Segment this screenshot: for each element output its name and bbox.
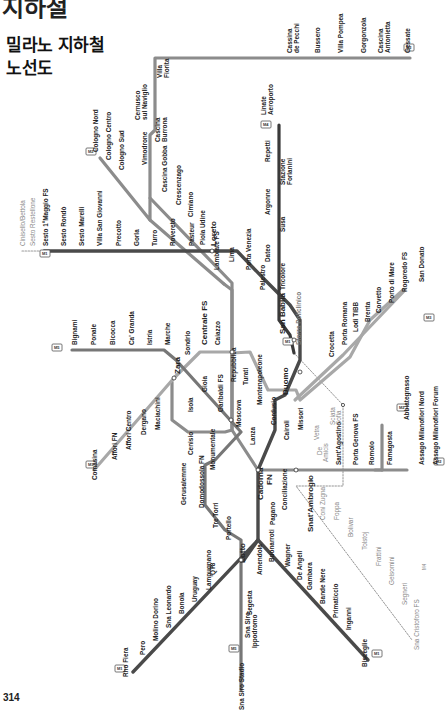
station-sondrio[interactable]: Sondrio (184, 331, 191, 355)
station-tricolore[interactable]: Tricolore (279, 263, 286, 290)
station-romolo[interactable]: Romolo (368, 441, 375, 465)
station-gioia[interactable]: Gioia (201, 376, 208, 392)
station-bicocca[interactable]: Bicocca (109, 320, 116, 345)
station-buonarroti[interactable]: Buonarroti (268, 529, 275, 562)
station-gessate[interactable]: Gessate (404, 28, 411, 53)
station-segesta[interactable]: Segesta (246, 590, 254, 615)
station-corvetto[interactable]: Corvetto (375, 287, 382, 313)
station-brenta[interactable]: Brenta (364, 301, 371, 322)
station-rho-fiera[interactable]: Rho Fiera (122, 647, 129, 677)
station-piola[interactable]: Piola (199, 229, 206, 245)
station-sna-siro-stadio[interactable]: Sna Siro Stadio (238, 663, 245, 710)
station-ippodromo-1[interactable]: Sna Siro (244, 612, 251, 638)
station-susa[interactable]: Susa (279, 216, 286, 232)
station-foppa[interactable]: Foppa (333, 501, 341, 520)
station-centrale-fs[interactable]: Centrale FS (200, 300, 209, 345)
station-argonne[interactable]: Argonne (264, 188, 272, 215)
station-cologno-nord[interactable]: Cologno Nord (92, 109, 100, 152)
station-bolivar[interactable]: Bolivar (347, 517, 354, 537)
station-maciachini[interactable]: Maciachini (154, 397, 161, 430)
station-affori-fn[interactable]: Affori FN (111, 432, 118, 460)
station-cascina-burrona-1[interactable]: Cascina (154, 117, 161, 142)
station-cimiano[interactable]: Cimiano (187, 192, 194, 217)
station-sesto-marelli[interactable]: Sesto Marelli (78, 206, 85, 246)
station-cernusco-1[interactable]: Cernusco (134, 90, 141, 120)
station-san-donato[interactable]: San Donato (418, 246, 425, 282)
station-ca-granda[interactable]: Ca' Granda (128, 311, 135, 345)
station-bussero[interactable]: Bussero (314, 27, 321, 53)
station-missori[interactable]: Missori (297, 407, 304, 430)
station-montenapoleone[interactable]: Montenapoleone (256, 354, 264, 405)
station-inganni[interactable]: Inganni (345, 607, 353, 630)
station-gambara[interactable]: Gambara (306, 562, 313, 590)
station-primaticcio[interactable]: Primaticcio (332, 583, 339, 618)
station-porta-venezia[interactable]: Porta Venezia (245, 228, 252, 270)
station-duomo[interactable]: Duomo (281, 367, 290, 395)
station-abbiategrasso[interactable]: Abbiategrasso (403, 376, 411, 420)
station-gorgonzola[interactable]: Gorgonzola (360, 17, 368, 53)
station-cascina-gobba[interactable]: Cascina Gobba (161, 145, 168, 192)
station-famagosta[interactable]: Famagosta (386, 431, 394, 465)
station-rovereto[interactable]: Rovereto (169, 218, 176, 246)
station-affori-centro[interactable]: Affori Centro (125, 410, 132, 450)
station-bonola[interactable]: Bonola (178, 592, 185, 614)
station-caiazzo[interactable]: Caiazzo (214, 321, 221, 345)
station-cologno-sud[interactable]: Cologno Sud (118, 130, 126, 170)
station-wagner[interactable]: Wagner (284, 543, 292, 567)
station-tre-torri[interactable]: Tre Torri (212, 502, 219, 528)
station-moscova[interactable]: Moscova (235, 399, 242, 427)
station-zara[interactable]: Zara (173, 357, 182, 374)
station-lima[interactable]: Lima (228, 247, 235, 262)
station-garibaldi[interactable]: Garibaldi FS (217, 374, 224, 412)
station-lanza[interactable]: Lanza (249, 426, 256, 445)
station-villa-fiorita-1[interactable]: Villa (156, 65, 163, 78)
station-segneri[interactable]: Segneri (401, 583, 409, 605)
station-cascina-antonietta-1[interactable]: Cascina (377, 28, 384, 53)
station-vetra[interactable]: Vetra (313, 425, 320, 440)
station-cenisio[interactable]: Cenisio (187, 432, 194, 455)
station-conciliazione[interactable]: Conciliazione (281, 468, 288, 510)
station-porta-romana[interactable]: Porta Romana (341, 301, 348, 345)
station-de-angeli[interactable]: De Angeli (296, 551, 304, 580)
station-coni-zugna[interactable]: Coni Zugna (319, 487, 327, 520)
station-repetti[interactable]: Repetti (264, 140, 272, 162)
station-isola[interactable]: Isola (187, 397, 194, 412)
station-lampugnano[interactable]: Lampugnano (205, 550, 213, 590)
station-turati[interactable]: Turati (242, 367, 249, 385)
station-monumentale[interactable]: Monumentale (209, 428, 216, 470)
station-amendola[interactable]: Amendola (256, 544, 263, 575)
station-sforza-policlinico[interactable]: Sforza Policlinico (295, 292, 302, 345)
station-cairoli[interactable]: Cairoli (283, 420, 290, 440)
station-cassina-1[interactable]: Cassina (286, 28, 293, 53)
station-sant-agostino[interactable]: Sant'Agostino (335, 422, 343, 465)
station-molino-dorino[interactable]: Molino Dorino (152, 598, 159, 641)
station-san-babila[interactable]: San Babila (278, 293, 287, 334)
station-sesto-rondo[interactable]: Sesto Rondò (60, 206, 67, 246)
station-sna-cristoforo[interactable]: Sna Cristoforo FS (413, 599, 420, 650)
station-precotto[interactable]: Precotto (115, 220, 122, 246)
station-domodossola[interactable]: Domodossola FN (198, 455, 205, 508)
station-palestro[interactable]: Palestro (259, 265, 266, 290)
station-cordusio[interactable]: Cordusio (270, 397, 277, 425)
station-gorla[interactable]: Gorla (133, 229, 140, 246)
station-vimodrone[interactable]: Vimodrone (141, 131, 148, 165)
station-linate-1[interactable]: Linate (260, 96, 267, 115)
station-istria[interactable]: Istria (146, 329, 153, 345)
station-bande-nere[interactable]: Bande Nere (319, 568, 326, 604)
station-gelsomini[interactable]: Gelsomini (388, 557, 395, 585)
station-crocetta[interactable]: Crocetta (328, 331, 335, 357)
station-pagano[interactable]: Pagano (269, 502, 277, 525)
station-porta-genova[interactable]: Porta Genova FS (352, 413, 359, 465)
station-portello[interactable]: Portello (225, 516, 232, 540)
station-lodi-tibb[interactable]: Lodi TIBB (352, 301, 359, 332)
station-crescenzago[interactable]: Crescenzago (175, 165, 183, 205)
station-cologno-centro[interactable]: Cologno Centro (105, 112, 113, 160)
station-porto-di-mare[interactable]: Porto di Mare (388, 262, 395, 303)
station-villa-pompea[interactable]: Villa Pompea (337, 13, 345, 53)
station-udine[interactable]: Udine (199, 210, 206, 228)
station-sna-leonardo[interactable]: Sna Leonardo (165, 585, 172, 628)
station-turro[interactable]: Turro (151, 230, 158, 246)
station-tolstoj[interactable]: Tolstoj (361, 532, 369, 550)
station-forlanini-1[interactable]: Stazione (279, 158, 286, 185)
station-frattini[interactable]: Frattini (375, 546, 382, 566)
